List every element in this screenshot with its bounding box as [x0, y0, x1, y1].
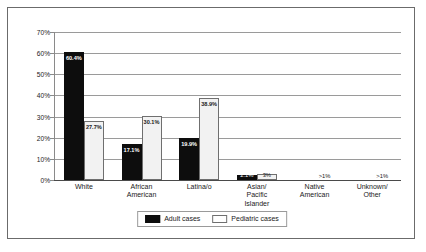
y-axis-tick-label: 0%: [40, 177, 50, 184]
bar-pair: >1%>1%: [343, 32, 401, 180]
bar-pediatric[interactable]: 3%: [257, 174, 277, 180]
bar-value-label: >1%: [319, 173, 331, 179]
x-axis-line: [54, 180, 401, 181]
bar-group: 19.9%38.9%: [170, 32, 228, 180]
bar-value-label: 60.4%: [66, 55, 82, 61]
bar-group: 60.4%27.7%: [55, 32, 113, 180]
y-axis-tick-mark: [50, 117, 54, 118]
black-square-icon: [145, 215, 160, 223]
bar-value-label: 2.1%: [240, 172, 253, 178]
y-axis-tick-mark: [50, 159, 54, 160]
y-axis-tick-label: 70%: [37, 29, 50, 36]
legend-item[interactable]: Pediatric cases: [212, 215, 278, 223]
y-axis-tick-label: 10%: [37, 155, 50, 162]
chart-plot-wrapper: 0%10%20%30%40%50%60%70% 60.4%27.7%17.1%3…: [8, 8, 416, 240]
bar-pediatric[interactable]: 38.9%: [199, 98, 219, 180]
y-axis-tick-mark: [50, 95, 54, 96]
bar-group: >1%>1%: [343, 32, 401, 180]
bar-pair: >1%>1%: [286, 32, 344, 180]
y-axis-tick-label: 40%: [37, 92, 50, 99]
y-axis-tick-label: 50%: [37, 71, 50, 78]
y-axis-tick-labels: 0%10%20%30%40%50%60%70%: [16, 32, 50, 180]
bar-pair: 2.1%3%: [228, 32, 286, 180]
y-axis-tick-mark: [50, 138, 54, 139]
bar-pair: 19.9%38.9%: [170, 32, 228, 180]
x-axis-category-label: Native American: [286, 183, 344, 215]
bar-pediatric[interactable]: 30.1%: [142, 116, 162, 180]
white-square-icon: [212, 215, 227, 223]
bar-value-label: >1%: [376, 173, 388, 179]
y-axis-tick-mark: [50, 53, 54, 54]
x-axis-category-label: White: [55, 183, 113, 215]
x-axis-category-label: Unknown/ Other: [343, 183, 401, 215]
bar-value-label: 17.1%: [124, 147, 140, 153]
bar-value-label: 27.7%: [86, 124, 102, 130]
legend-item-label: Pediatric cases: [231, 215, 278, 223]
y-axis-tick-label: 60%: [37, 50, 50, 57]
chart-frame: 0%10%20%30%40%50%60%70% 60.4%27.7%17.1%3…: [7, 7, 415, 239]
y-axis-tick-mark: [50, 74, 54, 75]
legend-item-label: Adult cases: [164, 215, 200, 223]
y-axis-tick-label: 20%: [37, 134, 50, 141]
bar-value-label: >1%: [356, 173, 368, 179]
y-axis-tick-mark: [50, 180, 54, 181]
bar-adult[interactable]: 2.1%: [237, 175, 257, 180]
bar-value-label: 30.1%: [144, 119, 160, 125]
bar-value-label: 38.9%: [201, 101, 217, 107]
y-axis-tick-mark: [50, 32, 54, 33]
bar-value-label: 3%: [263, 172, 271, 178]
bar-pediatric[interactable]: 27.7%: [84, 121, 104, 180]
bar-value-label: >1%: [299, 173, 311, 179]
bar-pair: 60.4%27.7%: [55, 32, 113, 180]
bar-adult[interactable]: 17.1%: [122, 144, 142, 180]
bar-group: >1%>1%: [286, 32, 344, 180]
bar-group: 17.1%30.1%: [113, 32, 171, 180]
bar-pair: 17.1%30.1%: [113, 32, 171, 180]
y-axis-tick-label: 30%: [37, 113, 50, 120]
bar-value-label: 19.9%: [181, 141, 197, 147]
bar-adult[interactable]: 60.4%: [64, 52, 84, 180]
legend-item[interactable]: Adult cases: [145, 215, 200, 223]
bar-groups: 60.4%27.7%17.1%30.1%19.9%38.9%2.1%3%>1%>…: [55, 32, 401, 180]
chart-legend: Adult casesPediatric cases: [137, 211, 287, 227]
bar-adult[interactable]: 19.9%: [179, 138, 199, 180]
bar-group: 2.1%3%: [228, 32, 286, 180]
